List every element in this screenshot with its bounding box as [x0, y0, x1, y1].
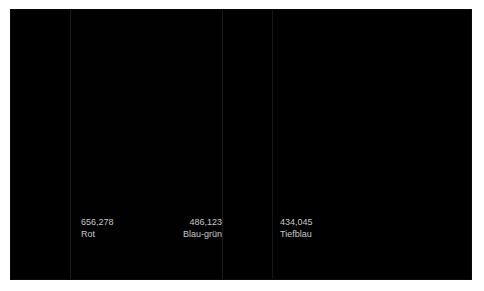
band-divider-1 — [70, 10, 71, 279]
color-band-2 — [223, 10, 272, 279]
annotation-blau-gruen: 486,123 Blau-grün — [72, 216, 222, 240]
annotation-tiefblau: 434,045 Tiefblau — [280, 216, 313, 240]
band-divider-2 — [222, 10, 223, 279]
annotation-label: Tiefblau — [280, 228, 313, 240]
dark-image-panel: 656,278 Rot 486,123 Blau-grün 434,045 Ti… — [11, 10, 471, 279]
band-divider-3 — [272, 10, 273, 279]
annotation-value: 434,045 — [280, 216, 313, 228]
annotation-value: 486,123 — [72, 216, 222, 228]
annotation-label: Blau-grün — [72, 228, 222, 240]
color-band-0 — [11, 10, 70, 279]
